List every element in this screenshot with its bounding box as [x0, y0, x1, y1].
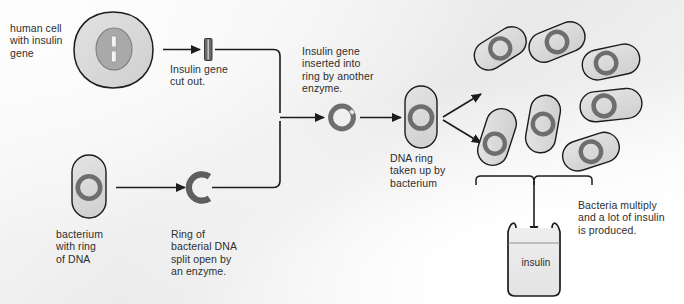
arrow-icon [443, 94, 481, 117]
label-gene-inserted: Insulin gene inserted into ring by anoth… [302, 45, 402, 95]
bacterium-icon [579, 87, 644, 123]
label-ring-split: Ring of bacterial DNA split open by an e… [171, 228, 267, 278]
arrow-icon [443, 120, 481, 143]
recombinant-ring-icon [331, 106, 354, 129]
bacterium-icon [469, 21, 532, 75]
ring-route-path [212, 121, 280, 188]
label-bacterium-ring: bacterium with ring of DNA [56, 228, 134, 265]
bacterium-icon [559, 128, 623, 174]
bacterium-icon [524, 17, 589, 67]
bacterium-icon [523, 93, 563, 155]
label-insulin-jar: insulin [516, 257, 556, 269]
bacterium-icon [474, 105, 520, 169]
label-bacteria-multiply: Bacteria multiply and a lot of insulin i… [578, 199, 684, 236]
label-gene-cut-out: Insulin gene cut out. [170, 63, 262, 88]
bacterium-icon [580, 41, 643, 82]
label-human-cell: human cell with insulin gene [10, 22, 88, 59]
split-ring-icon [189, 174, 210, 200]
label-ring-taken-up: DNA ring taken up by bacterium [390, 152, 480, 189]
transformed-bacterium-icon [405, 86, 437, 148]
diagram-canvas: human cell with insulin gene Insulin gen… [0, 0, 684, 304]
insulin-gene-cut-icon [205, 39, 213, 61]
bacteria-colony [469, 17, 644, 175]
bacterium-icon [72, 155, 106, 218]
